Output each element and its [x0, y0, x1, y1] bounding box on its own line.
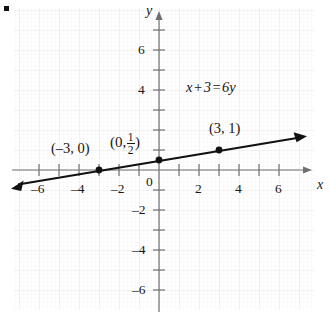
point-marker-3-1 [216, 147, 223, 154]
point-label-3-1: (3, 1) [209, 121, 240, 136]
point-label-x-intercept: (–3, 0) [51, 141, 90, 156]
x-tick-label-6: 6 [275, 182, 282, 196]
y-tick-label--6: –6 [132, 283, 146, 297]
point-marker-x-intercept [96, 167, 103, 174]
equation-annotation: x+3=6y [186, 80, 236, 95]
point-marker-y-intercept [156, 157, 163, 164]
y-tick-label-4: 4 [138, 83, 145, 97]
y-tick-label-6: 6 [138, 43, 145, 57]
origin-label: 0 [146, 175, 153, 189]
y-axis-label: y [146, 4, 152, 18]
x-axis-label: x [317, 178, 323, 192]
equation-equals: = [211, 79, 222, 95]
y-intercept-close: ) [135, 134, 140, 150]
coordinate-plane-svg [0, 0, 330, 327]
x-tick-label-4: 4 [235, 182, 242, 196]
equation-three: 3 [204, 79, 211, 95]
y-tick-label--4: –4 [132, 243, 146, 257]
graph-figure: x y 0 –6 –4 –2 2 4 6 6 4 –2 –4 –6 x+3=6y… [0, 0, 330, 327]
y-tick-label--2: –2 [132, 203, 146, 217]
fraction-denominator: 2 [127, 143, 135, 156]
point-label-y-intercept: (0,12) [110, 131, 140, 156]
background-grid [14, 8, 314, 310]
x-tick-label-2: 2 [195, 182, 202, 196]
fraction-numerator: 1 [127, 131, 135, 143]
one-half-fraction: 12 [127, 131, 135, 156]
x-tick-label--2: –2 [111, 182, 125, 196]
y-intercept-open: (0, [110, 134, 126, 150]
x-tick-label--4: –4 [71, 182, 85, 196]
x-tick-label--6: –6 [31, 182, 45, 196]
equation-six-y: 6y [222, 79, 236, 95]
equation-plus: + [192, 79, 203, 95]
